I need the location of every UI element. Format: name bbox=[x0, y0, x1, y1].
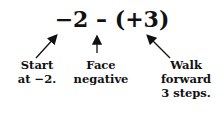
label-walk-forward: Walk forward 3 steps. bbox=[156, 58, 216, 100]
arrow-walk bbox=[148, 36, 170, 58]
arrow-start bbox=[36, 36, 56, 58]
label-face-negative: Face negative bbox=[72, 58, 130, 86]
label-start: Start at −2. bbox=[12, 58, 62, 86]
